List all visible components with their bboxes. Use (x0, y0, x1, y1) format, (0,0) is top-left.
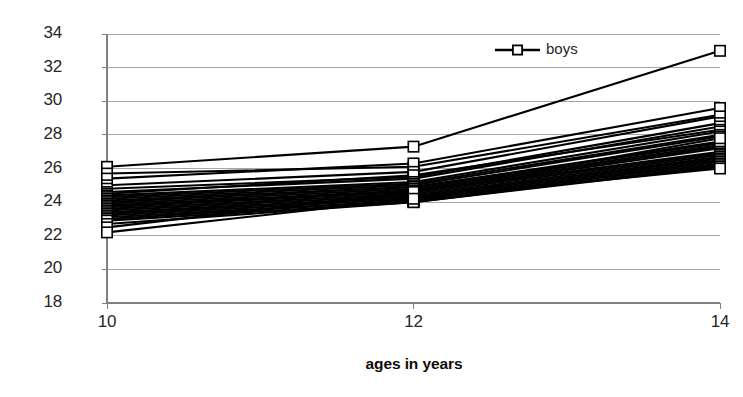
legend-label-holder: boys (546, 40, 578, 57)
chart-legend (495, 45, 540, 54)
legend-entry-boys: boys (546, 40, 578, 57)
plot-area (0, 0, 743, 397)
chart-figure: dental measurement in mm 34 32 30 28 26 … (0, 0, 743, 397)
